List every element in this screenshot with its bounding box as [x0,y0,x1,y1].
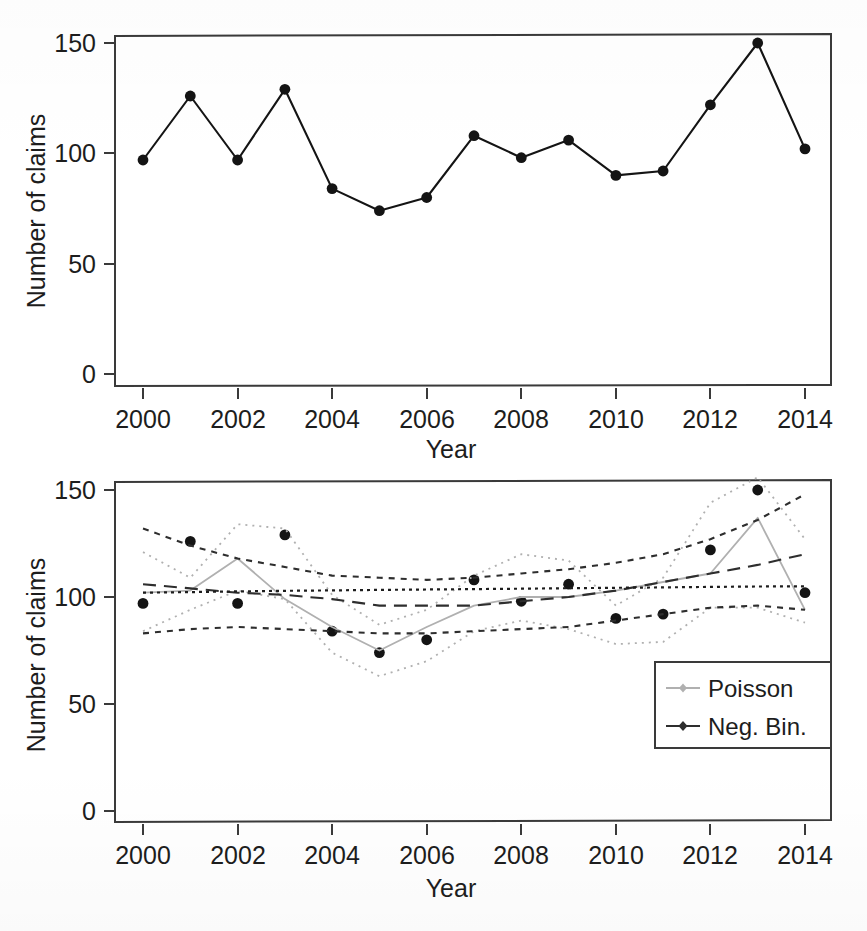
data-point-observed-2 [232,155,243,166]
top-y-tick-100: 100 [54,139,96,167]
data-point-observed-5 [374,205,385,216]
bottom-x-tick-2008: 2008 [493,841,549,869]
top-x-tick-2006: 2006 [399,405,455,433]
bottom-x-tick-2014: 2014 [777,841,833,869]
top-xlabel: Year [426,435,477,460]
data-point-observed-2 [232,598,243,609]
data-point-observed-0 [138,598,149,609]
top-x-tick-2012: 2012 [682,405,738,433]
caption-fragment [0,905,867,931]
data-point-observed-12 [705,545,716,556]
bottom-y-tick-150: 150 [54,476,96,504]
data-point-observed-13 [752,38,763,49]
bottom-x-tick-2004: 2004 [304,841,360,869]
data-point-observed-0 [138,155,149,166]
data-point-observed-13 [752,485,763,496]
data-point-observed-10 [611,170,622,181]
bottom-x-tick-2012: 2012 [682,841,738,869]
top-panel-svg: 150 100 50 0 2000 2002 2004 2006 2008 [0,0,867,460]
data-point-observed-1 [185,91,196,102]
figure-container: 150 100 50 0 2000 2002 2004 2006 2008 [0,0,867,931]
bottom-panel-svg: 150 100 50 0 2000 2002 2004 2006 2008 20… [0,460,867,931]
bottom-xlabel: Year [426,874,477,902]
top-x-tick-2008: 2008 [493,405,549,433]
legend-label-poisson: Poisson [708,675,793,702]
bottom-x-tick-2002: 2002 [210,841,266,869]
top-x-tick-2002: 2002 [210,405,266,433]
legend-label-neg-bin: Neg. Bin. [708,713,807,740]
data-point-observed-4 [327,183,338,194]
legend[interactable]: Poisson Neg. Bin. [655,662,831,748]
bottom-ylabel: Number of claims [22,558,50,753]
data-point-observed-14 [800,144,811,155]
top-ylabel: Number of claims [22,114,50,309]
data-point-observed-7 [469,575,480,586]
data-point-observed-10 [611,613,622,624]
bottom-y-tick-50: 50 [68,690,96,718]
top-x-tick-2010: 2010 [588,405,644,433]
bottom-x-tick-2006: 2006 [399,841,455,869]
top-y-tick-0: 0 [82,360,96,388]
bottom-x-tick-2010: 2010 [588,841,644,869]
top-x-tick-2014: 2014 [777,405,833,433]
top-x-tick-2004: 2004 [304,405,360,433]
data-point-observed-6 [421,634,432,645]
bottom-y-tick-0: 0 [82,797,96,825]
data-point-observed-12 [705,99,716,110]
data-point-observed-3 [280,530,291,541]
bottom-y-tick-100: 100 [54,583,96,611]
data-point-observed-14 [800,587,811,598]
data-point-observed-9 [563,135,574,146]
top-y-tick-50: 50 [68,250,96,278]
bottom-panel: 150 100 50 0 2000 2002 2004 2006 2008 20… [0,460,867,931]
data-point-observed-11 [658,166,669,177]
top-x-tick-2000: 2000 [115,405,171,433]
data-point-observed-6 [421,192,432,203]
data-point-observed-3 [280,84,291,95]
top-y-tick-150: 150 [54,29,96,57]
top-panel: 150 100 50 0 2000 2002 2004 2006 2008 [0,0,867,460]
bottom-x-tick-2000: 2000 [115,841,171,869]
data-point-observed-7 [469,130,480,141]
data-point-observed-8 [516,152,527,163]
